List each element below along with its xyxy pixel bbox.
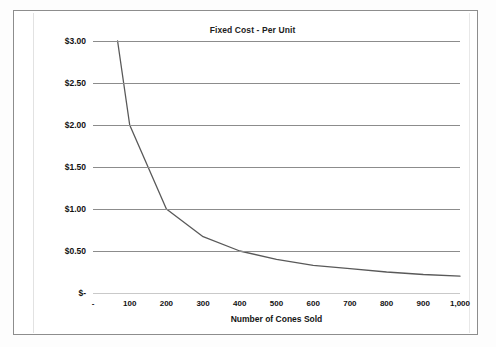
x-axis-tick-label: 500 — [270, 299, 283, 308]
gridline-y — [93, 209, 460, 210]
y-axis-tick-label: $3.00 — [65, 36, 86, 46]
x-axis-title: Number of Cones Sold — [93, 314, 460, 324]
plot-area: $3.00$2.50$2.00$1.50$1.00$0.50$--1002003… — [93, 41, 460, 293]
chart-screenshot: Fixed Cost - Per Unit $3.00$2.50$2.00$1.… — [0, 0, 496, 347]
x-axis-tick-label: 100 — [123, 299, 136, 308]
x-axis-tick-label: 900 — [417, 299, 430, 308]
x-axis-tick-label: 700 — [343, 299, 356, 308]
series-line — [118, 41, 460, 276]
gridline-y — [93, 125, 460, 126]
y-axis-tick-label: $1.50 — [65, 162, 86, 172]
x-axis-tick-label: 200 — [160, 299, 173, 308]
y-axis-tick-label: $0.50 — [65, 246, 86, 256]
gridline-y — [93, 41, 460, 42]
x-axis-tick-label: 1,000 — [450, 299, 470, 308]
y-axis-tick-label: $1.00 — [65, 204, 86, 214]
y-axis-tick-label: $2.00 — [65, 120, 86, 130]
chart-title: Fixed Cost - Per Unit — [34, 25, 471, 35]
gridline-y — [93, 251, 460, 252]
document-frame: Fixed Cost - Per Unit $3.00$2.50$2.00$1.… — [13, 10, 478, 335]
gridline-y — [93, 83, 460, 84]
x-axis-tick-label: 600 — [307, 299, 320, 308]
gridline-y — [93, 167, 460, 168]
chart-plate: Fixed Cost - Per Unit $3.00$2.50$2.00$1.… — [33, 13, 470, 333]
x-axis-tick-label: 800 — [380, 299, 393, 308]
gridline-y — [93, 293, 460, 294]
x-axis-tick-label: 400 — [233, 299, 246, 308]
y-axis-tick-label: $- — [78, 288, 86, 298]
y-axis-tick-label: $2.50 — [65, 78, 86, 88]
x-axis-tick-label: 300 — [196, 299, 209, 308]
x-axis-tick-label: - — [92, 299, 95, 308]
